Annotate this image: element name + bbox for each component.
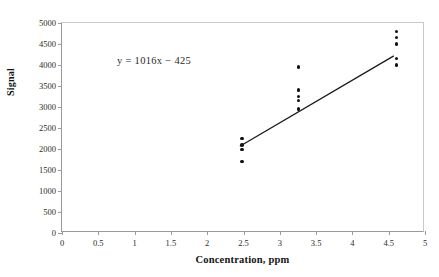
x-axis-tick-label: 4.5 [383,238,394,248]
x-axis-tick-label: 1 [132,238,136,248]
y-axis-tick-label: 2000 [39,144,56,154]
x-axis-tick-label: 2 [205,238,209,248]
x-axis-title: Concentration, ppm [61,254,424,265]
x-axis-tick-label: 0 [60,238,64,248]
chart-page: Signal 050010001500200025003000350040004… [0,0,439,277]
y-axis-tick-label: 3500 [39,81,56,91]
x-axis-tick-label: 1.5 [166,238,177,248]
y-axis-tick-label: 1000 [39,186,56,196]
x-axis-tick-label: 3 [278,238,282,248]
y-axis-tick-label: 1500 [39,165,56,175]
y-axis-tick-label: 500 [43,207,56,217]
x-axis-tick-label: 3.5 [311,238,322,248]
x-axis-tick-label: 5 [423,238,427,248]
y-axis-tick-label: 3000 [39,102,56,112]
y-axis-tick-label: 4000 [39,60,56,70]
x-axis-tick [425,231,426,235]
y-axis-tick-label: 5000 [39,18,56,28]
y-axis-tick-label: 4500 [39,39,56,49]
y-axis-tick-label: 2500 [39,123,56,133]
regression-equation-label: y = 1016x − 425 [117,55,191,66]
x-axis-tick-label: 0.5 [93,238,104,248]
x-axis-tick-label: 2.5 [238,238,249,248]
x-axis-tick-label: 4 [350,238,354,248]
plot-area: 0500100015002000250030003500400045005000… [61,22,424,232]
y-axis-title: Signal [5,68,16,96]
y-axis-tick-label: 0 [52,228,56,238]
